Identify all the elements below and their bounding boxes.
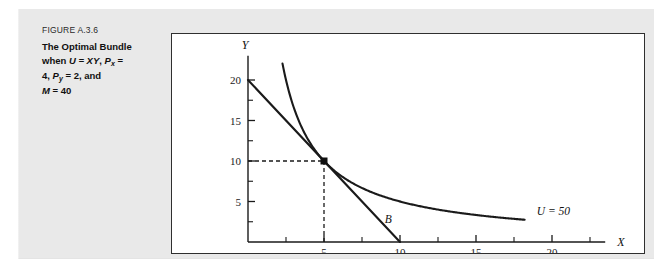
x-axis-label: X bbox=[616, 235, 625, 249]
x-tick-label: 5 bbox=[321, 246, 327, 253]
figure-screenshot: FIGURE A.3.6 The Optimal Bundle when U =… bbox=[0, 0, 654, 259]
figure-panel: FIGURE A.3.6 The Optimal Bundle when U =… bbox=[18, 9, 654, 259]
figure-caption: FIGURE A.3.6 The Optimal Bundle when U =… bbox=[42, 25, 162, 98]
figure-number: FIGURE A.3.6 bbox=[42, 25, 162, 35]
figure-title-utility: U = XY bbox=[69, 55, 99, 66]
figure-title-py-post: = 2, and bbox=[63, 70, 101, 81]
figure-title-px: P bbox=[105, 55, 111, 66]
y-tick-label: 10 bbox=[230, 155, 242, 167]
indifference-curve-label: U = 50 bbox=[537, 205, 571, 217]
x-tick-label: 10 bbox=[395, 246, 407, 253]
figure-title-py-sub: y bbox=[59, 75, 63, 82]
optimal-bundle-chart: 51015205101520XYBU = 50 bbox=[172, 34, 644, 253]
figure-title-income: M bbox=[42, 85, 50, 96]
y-tick-label: 20 bbox=[230, 74, 242, 86]
figure-title-income-value: = 40 bbox=[50, 85, 71, 96]
y-tick-label: 5 bbox=[236, 196, 242, 208]
optimal-bundle-point bbox=[321, 158, 328, 165]
figure-title-line3: 4, bbox=[42, 70, 53, 81]
plot-frame: 51015205101520XYBU = 50 bbox=[171, 33, 645, 254]
figure-title-px-sub: x bbox=[111, 60, 115, 67]
x-tick-label: 15 bbox=[471, 246, 483, 253]
figure-title-line1: The Optimal Bundle bbox=[42, 41, 132, 52]
figure-title: The Optimal Bundle when U = XY, Px = 4, … bbox=[42, 40, 162, 98]
figure-title-when: when bbox=[42, 55, 69, 66]
figure-title-px-post: = bbox=[115, 55, 123, 66]
budget-line-label: B bbox=[385, 213, 392, 225]
y-tick-label: 15 bbox=[230, 115, 242, 127]
x-tick-label: 20 bbox=[547, 246, 559, 253]
y-axis-label: Y bbox=[242, 38, 250, 52]
indifference-curve bbox=[283, 64, 525, 220]
figure-title-py: P bbox=[53, 70, 59, 81]
